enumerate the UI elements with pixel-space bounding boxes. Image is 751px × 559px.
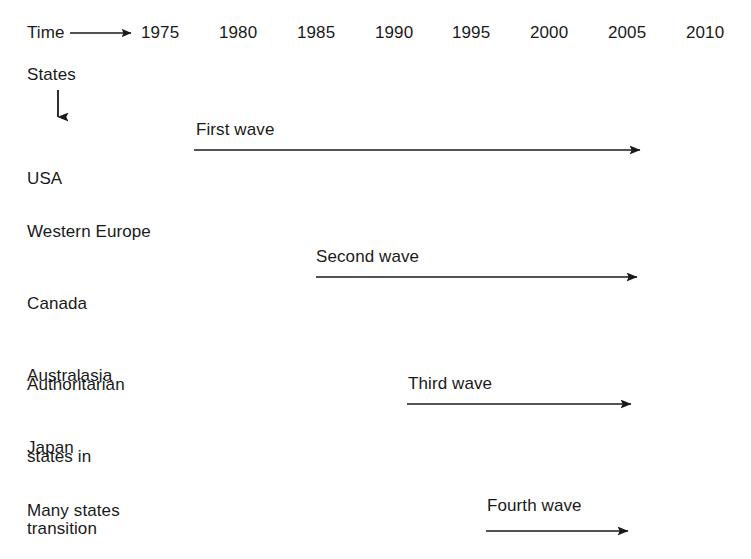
- third-wave-label: Third wave: [408, 372, 492, 396]
- states-axis-label: States: [27, 63, 76, 87]
- year-tick-1990: 1990: [375, 21, 413, 45]
- group-line: Canada: [27, 292, 151, 316]
- year-tick-1995: 1995: [452, 21, 490, 45]
- group-line: Western Europe: [27, 220, 151, 244]
- year-tick-1975: 1975: [141, 21, 179, 45]
- year-tick-1980: 1980: [219, 21, 257, 45]
- first-wave-label: First wave: [196, 118, 274, 142]
- diagram-canvas: Time 1975 1980 1985 1990 1995 2000 2005 …: [0, 0, 751, 559]
- fourth-wave-label: Fourth wave: [487, 494, 582, 518]
- group-label-convergence: Many states pursuing convergence: [27, 451, 125, 559]
- year-tick-2010: 2010: [686, 21, 724, 45]
- time-axis-label: Time: [27, 21, 65, 45]
- group-line: Many states: [27, 499, 125, 523]
- group-line: Authoritarian: [27, 373, 125, 397]
- year-tick-2000: 2000: [530, 21, 568, 45]
- year-tick-1985: 1985: [297, 21, 335, 45]
- second-wave-label: Second wave: [316, 245, 419, 269]
- year-tick-2005: 2005: [608, 21, 646, 45]
